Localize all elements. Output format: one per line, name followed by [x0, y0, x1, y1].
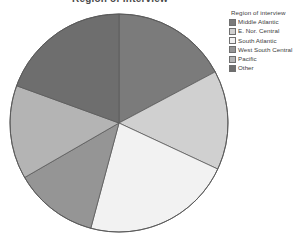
legend-swatch-icon — [229, 56, 236, 63]
legend-title: Region of interview — [231, 9, 303, 16]
pie-slice-group — [10, 14, 228, 232]
legend-item-label: Pacific — [238, 55, 257, 63]
legend-swatch-icon — [229, 46, 236, 53]
legend-item-label: E. Nor. Central — [238, 27, 279, 35]
legend-item[interactable]: West South Central — [229, 46, 303, 55]
legend-swatch-icon — [229, 19, 236, 26]
legend-item[interactable]: South Atlantic — [229, 36, 303, 45]
legend-swatch-icon — [229, 65, 236, 72]
legend: Region of interview Middle AtlanticE. No… — [229, 9, 303, 73]
chart-title: Region of interview — [0, 0, 240, 4]
legend-item-label: Middle Atlantic — [238, 18, 279, 26]
pie-plot-area — [9, 13, 229, 233]
legend-item[interactable]: E. Nor. Central — [229, 27, 303, 36]
legend-item[interactable]: Other — [229, 64, 303, 73]
pie-svg — [9, 13, 229, 233]
legend-item[interactable]: Middle Atlantic — [229, 18, 303, 27]
legend-item[interactable]: Pacific — [229, 55, 303, 64]
legend-swatch-icon — [229, 37, 236, 44]
legend-items: Middle AtlanticE. Nor. CentralSouth Atla… — [229, 18, 303, 73]
legend-item-label: Other — [238, 64, 254, 72]
legend-item-label: South Atlantic — [238, 37, 277, 45]
pie-chart-figure: Region of interview Region of interview … — [0, 0, 303, 237]
legend-item-label: West South Central — [238, 46, 292, 54]
legend-swatch-icon — [229, 28, 236, 35]
